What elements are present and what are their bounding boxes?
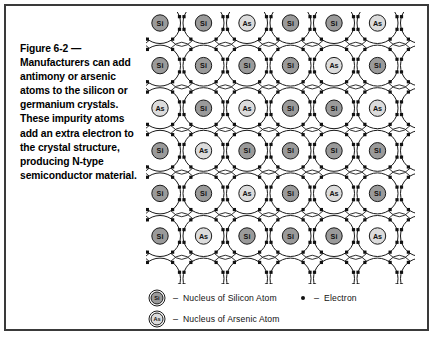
atom: Si bbox=[146, 216, 181, 257]
svg-text:Si: Si bbox=[157, 189, 164, 198]
atom: As bbox=[357, 88, 398, 129]
atom: As bbox=[227, 173, 268, 214]
atoms: SiSiAsSiSiAsSiSiSiSiAsSiAsSiAsSiSiAsSiAs… bbox=[146, 12, 415, 284]
atom: Si bbox=[270, 45, 311, 86]
svg-text:Si: Si bbox=[331, 104, 338, 113]
legend-dash: – bbox=[173, 294, 178, 303]
svg-text:Si: Si bbox=[157, 232, 164, 241]
svg-text:Si: Si bbox=[374, 146, 381, 155]
atom: Si bbox=[146, 12, 181, 44]
svg-text:As: As bbox=[373, 19, 382, 28]
atom bbox=[146, 258, 181, 284]
svg-text:Si: Si bbox=[157, 19, 164, 28]
svg-text:Si: Si bbox=[374, 61, 381, 70]
svg-text:As: As bbox=[155, 104, 164, 113]
electron-icon bbox=[298, 294, 307, 303]
atom: Si bbox=[357, 45, 398, 86]
atom: Si bbox=[146, 173, 181, 214]
svg-text:Si: Si bbox=[331, 19, 338, 28]
atom: As bbox=[183, 130, 224, 171]
atom: Si bbox=[227, 216, 268, 257]
svg-text:Si: Si bbox=[287, 61, 294, 70]
svg-text:As: As bbox=[199, 232, 208, 241]
svg-text:As: As bbox=[329, 61, 338, 70]
atom bbox=[401, 173, 416, 214]
atom bbox=[401, 216, 416, 257]
atom bbox=[401, 130, 416, 171]
svg-text:Si: Si bbox=[154, 295, 160, 301]
atom: Si bbox=[314, 12, 355, 44]
atom: Si bbox=[183, 12, 224, 44]
svg-text:Si: Si bbox=[331, 146, 338, 155]
svg-text:As: As bbox=[373, 104, 382, 113]
svg-text:As: As bbox=[242, 104, 251, 113]
atom: Si bbox=[146, 130, 181, 171]
atom: Si bbox=[183, 45, 224, 86]
atom: As bbox=[314, 173, 355, 214]
svg-text:Si: Si bbox=[157, 61, 164, 70]
svg-text:As: As bbox=[153, 316, 160, 322]
svg-text:Si: Si bbox=[287, 146, 294, 155]
svg-text:Si: Si bbox=[244, 146, 251, 155]
atom: Si bbox=[270, 130, 311, 171]
legend-label-electron: Electron bbox=[324, 293, 357, 303]
legend-dash: – bbox=[173, 315, 178, 324]
atom: Si bbox=[270, 216, 311, 257]
legend: Si – Nucleus of Silicon Atom As – Nucleu… bbox=[146, 287, 418, 331]
atom: Si bbox=[227, 130, 268, 171]
atom: Si bbox=[146, 45, 181, 86]
atom: As bbox=[357, 216, 398, 257]
legend-item-electron: – Electron bbox=[298, 289, 357, 307]
svg-text:Si: Si bbox=[200, 61, 207, 70]
atom bbox=[401, 45, 416, 86]
atom: As bbox=[227, 88, 268, 129]
svg-text:Si: Si bbox=[244, 61, 251, 70]
legend-item-silicon: Si – Nucleus of Silicon Atom bbox=[148, 289, 277, 307]
svg-text:Si: Si bbox=[200, 189, 207, 198]
svg-text:Si: Si bbox=[287, 19, 294, 28]
svg-text:Si: Si bbox=[287, 104, 294, 113]
arsenic-nucleus-icon: As bbox=[148, 310, 166, 328]
svg-text:Si: Si bbox=[287, 189, 294, 198]
atom: Si bbox=[183, 173, 224, 214]
figure-caption: Figure 6-2 — Manufacturers can add antim… bbox=[20, 42, 140, 183]
crystal-lattice-diagram: SiSiAsSiSiAsSiSiSiSiAsSiAsSiAsSiSiAsSiAs… bbox=[146, 12, 415, 284]
atom: Si bbox=[270, 173, 311, 214]
atom: Si bbox=[314, 216, 355, 257]
legend-dash: – bbox=[314, 294, 319, 303]
atom: Si bbox=[314, 130, 355, 171]
silicon-nucleus-icon: Si bbox=[148, 289, 166, 307]
atom: Si bbox=[357, 173, 398, 214]
atom bbox=[357, 258, 398, 284]
atom bbox=[401, 88, 416, 129]
atom: Si bbox=[183, 88, 224, 129]
atom: As bbox=[227, 12, 268, 44]
atom: As bbox=[183, 216, 224, 257]
svg-text:As: As bbox=[373, 232, 382, 241]
atom: Si bbox=[270, 88, 311, 129]
legend-item-arsenic: As – Nucleus of Arsenic Atom bbox=[148, 310, 280, 328]
svg-text:As: As bbox=[242, 19, 251, 28]
atom bbox=[314, 258, 355, 284]
legend-label-arsenic: Nucleus of Arsenic Atom bbox=[183, 314, 280, 324]
svg-text:As: As bbox=[329, 189, 338, 198]
svg-text:Si: Si bbox=[244, 232, 251, 241]
legend-label-silicon: Nucleus of Silicon Atom bbox=[183, 293, 277, 303]
atom: As bbox=[314, 45, 355, 86]
svg-text:Si: Si bbox=[200, 19, 207, 28]
atom bbox=[270, 258, 311, 284]
atom: Si bbox=[270, 12, 311, 44]
atom: Si bbox=[227, 45, 268, 86]
atom bbox=[227, 258, 268, 284]
svg-text:As: As bbox=[199, 146, 208, 155]
svg-text:As: As bbox=[242, 189, 251, 198]
svg-text:Si: Si bbox=[331, 232, 338, 241]
svg-text:Si: Si bbox=[200, 104, 207, 113]
svg-text:Si: Si bbox=[287, 232, 294, 241]
atom: Si bbox=[357, 130, 398, 171]
atom bbox=[183, 258, 224, 284]
figure-frame: Figure 6-2 — Manufacturers can add antim… bbox=[4, 4, 429, 331]
lattice-svg: SiSiAsSiSiAsSiSiSiSiAsSiAsSiAsSiSiAsSiAs… bbox=[146, 12, 415, 284]
atom: As bbox=[146, 88, 181, 129]
svg-text:Si: Si bbox=[157, 146, 164, 155]
